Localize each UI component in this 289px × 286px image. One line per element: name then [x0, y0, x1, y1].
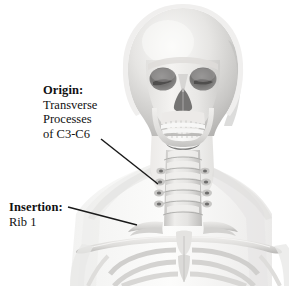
origin-heading: Origin:: [43, 83, 97, 98]
maxilla-teeth: [161, 111, 205, 129]
origin-annotation: Origin: Transverse Processes of C3-C6: [43, 83, 97, 141]
insertion-line-1: Rib 1: [9, 215, 63, 230]
skeleton-illustration: [0, 0, 289, 286]
insertion-heading: Insertion:: [9, 200, 63, 215]
origin-line-1: Transverse: [43, 98, 97, 113]
origin-line-3: of C3-C6: [43, 127, 97, 142]
origin-line-2: Processes: [43, 112, 97, 127]
anatomy-figure: Origin: Transverse Processes of C3-C6 In…: [0, 0, 289, 286]
insertion-annotation: Insertion: Rib 1: [9, 200, 63, 229]
